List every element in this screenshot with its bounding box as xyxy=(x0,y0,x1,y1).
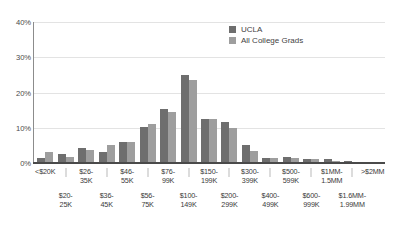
x-axis-tick-icon xyxy=(311,168,312,177)
income-distribution-bar-chart: 40%30%20%10%0% UCLA All College Grads <$… xyxy=(0,0,394,231)
bar xyxy=(209,119,217,163)
bar xyxy=(119,142,127,164)
x-axis-tick-icon xyxy=(147,168,148,177)
bar xyxy=(168,112,176,163)
bar-group xyxy=(117,22,137,163)
legend-item-all-college-grads: All College Grads xyxy=(229,35,303,46)
bar-group xyxy=(342,22,362,163)
bar-group xyxy=(178,22,198,163)
x-axis-tick-icon xyxy=(270,168,271,177)
legend-item-ucla: UCLA xyxy=(229,24,303,35)
y-axis-ticks: 40%30%20%10%0% xyxy=(0,22,31,163)
bar-group xyxy=(322,22,342,163)
bar xyxy=(148,124,156,163)
x-axis-label: >$2MM xyxy=(363,166,383,228)
bar xyxy=(160,109,168,163)
y-axis-tick-label: 10% xyxy=(1,124,31,133)
x-axis-tick-icon xyxy=(188,168,189,177)
bar xyxy=(201,119,209,163)
x-axis-line xyxy=(33,162,385,164)
bar-group xyxy=(363,22,383,163)
bar xyxy=(107,145,115,163)
x-axis-tick-icon xyxy=(65,168,66,177)
y-axis-tick-label: 0% xyxy=(1,159,31,168)
bar-group xyxy=(158,22,178,163)
y-axis-tick-label: 40% xyxy=(1,18,31,27)
bar xyxy=(140,127,148,163)
plot-area xyxy=(33,22,385,163)
x-axis-labels: <$20K$20-25K$26-35K$36-45K$46-55K$56-75K… xyxy=(33,166,385,228)
bar xyxy=(221,122,229,163)
bar xyxy=(189,80,197,163)
bar-group xyxy=(55,22,75,163)
bar-group xyxy=(137,22,157,163)
bar-group xyxy=(301,22,321,163)
bar xyxy=(78,148,86,163)
x-axis-tick-icon xyxy=(106,168,107,177)
bar-group xyxy=(76,22,96,163)
bar-group xyxy=(96,22,116,163)
x-axis-label-text: >$2MM xyxy=(356,168,390,177)
legend-swatch-icon xyxy=(229,26,236,33)
bar xyxy=(181,75,189,163)
legend-label: All College Grads xyxy=(241,35,303,46)
x-axis-tick-icon xyxy=(352,168,353,177)
chart-legend: UCLA All College Grads xyxy=(229,24,303,46)
bar-group xyxy=(199,22,219,163)
y-axis-tick-label: 20% xyxy=(1,89,31,98)
legend-swatch-icon xyxy=(229,37,236,44)
x-axis-tick-icon xyxy=(229,168,230,177)
bar xyxy=(127,142,135,163)
bar-group xyxy=(35,22,55,163)
legend-label: UCLA xyxy=(241,24,262,35)
bar xyxy=(229,128,237,163)
y-axis-line xyxy=(33,22,34,163)
bar xyxy=(242,145,250,163)
bar-groups xyxy=(33,22,385,163)
y-axis-tick-label: 30% xyxy=(1,53,31,62)
